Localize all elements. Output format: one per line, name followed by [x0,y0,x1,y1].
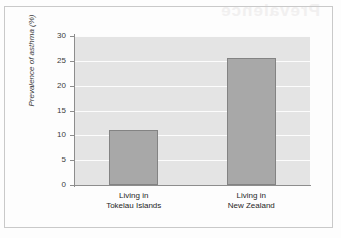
y-tick-mark [70,135,74,136]
bar [227,58,276,185]
y-tick-mark [70,36,74,37]
y-tick-label: 10 [48,131,66,139]
y-tick-mark [70,160,74,161]
y-axis-line [74,34,75,187]
y-axis-title: Prevalence of asthma (%) [27,0,36,131]
y-tick-label: 0 [48,181,66,189]
x-category-label: Living inTokelau Islands [74,191,194,211]
x-category-label-line: Living in [191,191,311,201]
y-tick-mark [70,185,74,186]
x-category-label-line: New Zealand [191,201,311,211]
x-category-label: Living inNew Zealand [191,191,311,211]
x-category-label-line: Tokelau Islands [74,201,194,211]
gridline [75,36,310,37]
y-tick-mark [70,61,74,62]
bar [109,130,158,185]
y-tick-label: 25 [48,57,66,65]
y-tick-label: 15 [48,107,66,115]
x-category-label-line: Living in [74,191,194,201]
y-tick-label: 20 [48,82,66,90]
y-tick-mark [70,86,74,87]
chart-figure: Prevalence Prevalence of asthma (%) 0510… [0,0,341,238]
y-tick-label: 30 [48,32,66,40]
y-tick-label: 5 [48,156,66,164]
y-tick-mark [70,111,74,112]
x-axis-line [74,185,311,186]
